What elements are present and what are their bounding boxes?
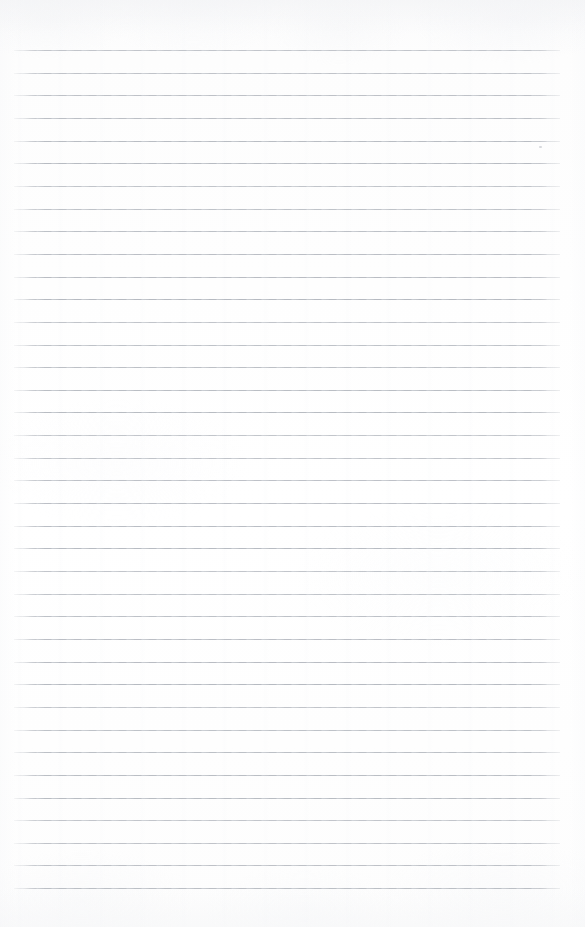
- rule-line: [14, 865, 560, 866]
- rule-line: [14, 345, 560, 346]
- rule-line: [14, 639, 560, 640]
- rule-line: [14, 888, 560, 889]
- rule-line: [14, 118, 560, 119]
- rule-line: [14, 730, 560, 731]
- rule-line: [14, 186, 560, 187]
- scan-speck: [539, 146, 542, 148]
- rule-line: [14, 277, 560, 278]
- rule-line: [14, 548, 560, 549]
- rule-line: [14, 571, 560, 572]
- rule-line: [14, 299, 560, 300]
- rule-line: [14, 662, 560, 663]
- rule-line: [14, 50, 560, 51]
- scanned-page: [0, 0, 585, 927]
- rule-line: [14, 163, 560, 164]
- rule-line: [14, 752, 560, 753]
- rule-line: [14, 231, 560, 232]
- rule-line: [14, 73, 560, 74]
- rule-line: [14, 707, 560, 708]
- rule-line: [14, 412, 560, 413]
- rule-line: [14, 503, 560, 504]
- ruled-lines-group: [0, 0, 585, 927]
- rule-line: [14, 254, 560, 255]
- rule-line: [14, 526, 560, 527]
- rule-line: [14, 684, 560, 685]
- rule-line: [14, 435, 560, 436]
- rule-line: [14, 594, 560, 595]
- rule-line: [14, 322, 560, 323]
- rule-line: [14, 141, 560, 142]
- rule-line: [14, 616, 560, 617]
- rule-line: [14, 843, 560, 844]
- rule-line: [14, 480, 560, 481]
- rule-line: [14, 775, 560, 776]
- rule-line: [14, 209, 560, 210]
- rule-line: [14, 390, 560, 391]
- rule-line: [14, 367, 560, 368]
- rule-line: [14, 798, 560, 799]
- rule-line: [14, 458, 560, 459]
- rule-line: [14, 820, 560, 821]
- rule-line: [14, 95, 560, 96]
